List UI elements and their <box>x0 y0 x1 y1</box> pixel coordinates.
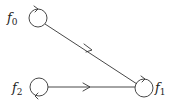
node-f1-subscript: 1 <box>160 87 166 97</box>
graph-canvas <box>0 0 180 104</box>
node-f2-subscript: 2 <box>17 87 23 97</box>
node-f0-subscript: 0 <box>12 17 18 27</box>
node-label-f1: f1 <box>155 81 166 97</box>
self-loop-f1 <box>135 79 153 97</box>
edge-f0-to-f1 <box>45 24 137 84</box>
node-label-f2: f2 <box>12 81 23 97</box>
edge-f0-to-f1-arrow-icon <box>84 44 92 52</box>
self-loop-f0 <box>29 9 47 27</box>
self-loop-f2 <box>30 78 48 96</box>
node-label-f0: f0 <box>7 11 18 27</box>
